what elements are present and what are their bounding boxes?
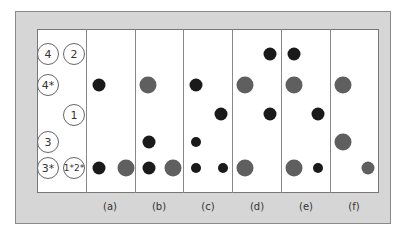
black-dot — [143, 136, 156, 149]
black-dot — [264, 48, 277, 61]
gray-dot — [335, 77, 352, 94]
black-dot — [190, 79, 203, 92]
column-divider — [183, 29, 184, 193]
black-dot — [191, 163, 201, 173]
state-label: 4 — [37, 43, 59, 65]
state-label: 2 — [63, 43, 85, 65]
column-divider — [281, 29, 282, 193]
column-label: (b) — [152, 201, 166, 212]
state-label: 1*2* — [63, 157, 85, 179]
gray-dot — [286, 77, 303, 94]
black-dot — [191, 137, 201, 147]
gray-dot — [286, 160, 303, 177]
column-divider — [232, 29, 233, 193]
black-dot — [93, 162, 106, 175]
black-dot — [143, 162, 156, 175]
black-dot — [288, 48, 301, 61]
black-dot — [313, 163, 323, 173]
column-label: (d) — [250, 201, 264, 212]
column-divider — [330, 29, 331, 193]
state-label: 4* — [37, 74, 59, 96]
black-dot — [264, 108, 277, 121]
black-dot — [93, 79, 106, 92]
column-divider — [135, 29, 136, 193]
state-label: 1 — [63, 104, 85, 126]
gray-dot — [237, 77, 254, 94]
gray-dot — [237, 160, 254, 177]
column-label: (a) — [103, 201, 117, 212]
column-label: (f) — [348, 201, 359, 212]
state-label: 3* — [37, 157, 59, 179]
state-label: 3 — [37, 131, 59, 153]
gray-dot — [165, 160, 182, 177]
column-label: (c) — [201, 201, 214, 212]
column-divider — [86, 29, 87, 193]
gray-dot — [362, 162, 375, 175]
gray-dot — [118, 160, 135, 177]
gray-dot — [140, 77, 157, 94]
diagram-panel — [37, 29, 379, 193]
black-dot — [218, 163, 228, 173]
gray-dot — [335, 134, 352, 151]
column-label: (e) — [299, 201, 313, 212]
black-dot — [215, 108, 228, 121]
black-dot — [312, 108, 325, 121]
